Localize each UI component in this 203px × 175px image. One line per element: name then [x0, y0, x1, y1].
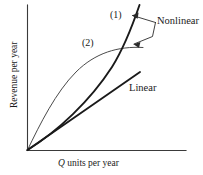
y-axis-label: Revenue per year — [10, 30, 20, 120]
curve-2-label: (2) — [82, 38, 94, 48]
nonlinear-label: Nonlinear — [157, 16, 199, 27]
x-axis-label-symbol: Q — [58, 158, 65, 168]
curve-nonlinear-2 — [28, 47, 144, 150]
curve-nonlinear-1 — [28, 5, 140, 150]
x-axis-label-text: units per year — [65, 158, 119, 168]
curve-1-label: (1) — [110, 10, 122, 20]
revenue-vs-quantity-figure: (1) (2) Nonlinear Linear Q units per yea… — [0, 0, 203, 175]
linear-label: Linear — [129, 83, 156, 94]
leader-line-to-curve2 — [134, 23, 156, 45]
x-axis-label: Q units per year — [58, 159, 119, 169]
